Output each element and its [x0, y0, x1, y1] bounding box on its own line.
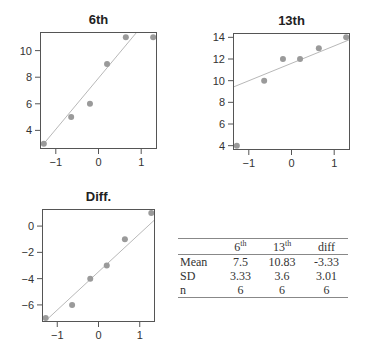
x-tick-label: −1 [243, 157, 256, 169]
data-point [122, 236, 128, 242]
data-point [280, 56, 286, 62]
data-point [104, 263, 110, 269]
table-header-row: 6th 13th diff [178, 239, 348, 255]
x-tick-label: 1 [137, 329, 143, 341]
chart-title: 13th [278, 13, 305, 28]
cell: 6 [259, 283, 305, 298]
table-row-sd: SD 3.33 3.6 3.01 [178, 269, 348, 283]
x-tick-label: 0 [95, 329, 101, 341]
y-tick-label: −2 [21, 246, 34, 258]
summary-statistics-table: 6th 13th diff Mean 7.5 10.83 -3.33 SD 3.… [178, 238, 348, 298]
cell: 6 [305, 283, 348, 298]
data-point [297, 56, 303, 62]
data-point [69, 302, 75, 308]
row-label: n [178, 283, 221, 298]
table-row-mean: Mean 7.5 10.83 -3.33 [178, 255, 348, 270]
y-tick-label: 14 [213, 31, 225, 43]
data-point [343, 34, 349, 40]
y-tick-label: 8 [219, 96, 225, 108]
cell: -3.33 [305, 255, 348, 270]
cell: 3.33 [221, 269, 259, 283]
y-tick-label: 12 [213, 53, 225, 65]
cell: 3.6 [259, 269, 305, 283]
y-tick-label: −6 [21, 299, 34, 311]
cell: 7.5 [221, 255, 259, 270]
data-point [234, 143, 240, 149]
row-label: Mean [178, 255, 221, 270]
x-tick-label: 0 [288, 157, 294, 169]
cell: 6 [221, 283, 259, 298]
data-point [316, 45, 322, 51]
y-tick-label: 4 [219, 140, 225, 152]
data-point [43, 315, 49, 321]
x-tick-label: 1 [331, 157, 337, 169]
reference-line [233, 40, 350, 88]
cell: 3.01 [305, 269, 348, 283]
y-tick-label: 0 [28, 220, 34, 232]
y-tick-label: 6 [219, 118, 225, 130]
qq-plot-diff: Diff.−101−6−4−20 [0, 0, 185, 355]
cell: 10.83 [259, 255, 305, 270]
table-row-n: n 6 6 6 [178, 283, 348, 298]
header-diff: diff [305, 239, 348, 255]
plot-frame [234, 34, 350, 150]
y-tick-label: 10 [213, 75, 225, 87]
data-point [261, 78, 267, 84]
header-13th: 13th [259, 239, 305, 255]
header-empty [178, 239, 221, 255]
reference-line [46, 220, 155, 321]
header-6th: 6th [221, 239, 259, 255]
data-point [87, 276, 93, 282]
plot-frame [43, 210, 155, 322]
y-tick-label: −4 [21, 273, 34, 285]
row-label: SD [178, 269, 221, 283]
x-tick-label: −1 [51, 329, 64, 341]
chart-title: Diff. [86, 189, 111, 204]
data-point [148, 210, 154, 216]
